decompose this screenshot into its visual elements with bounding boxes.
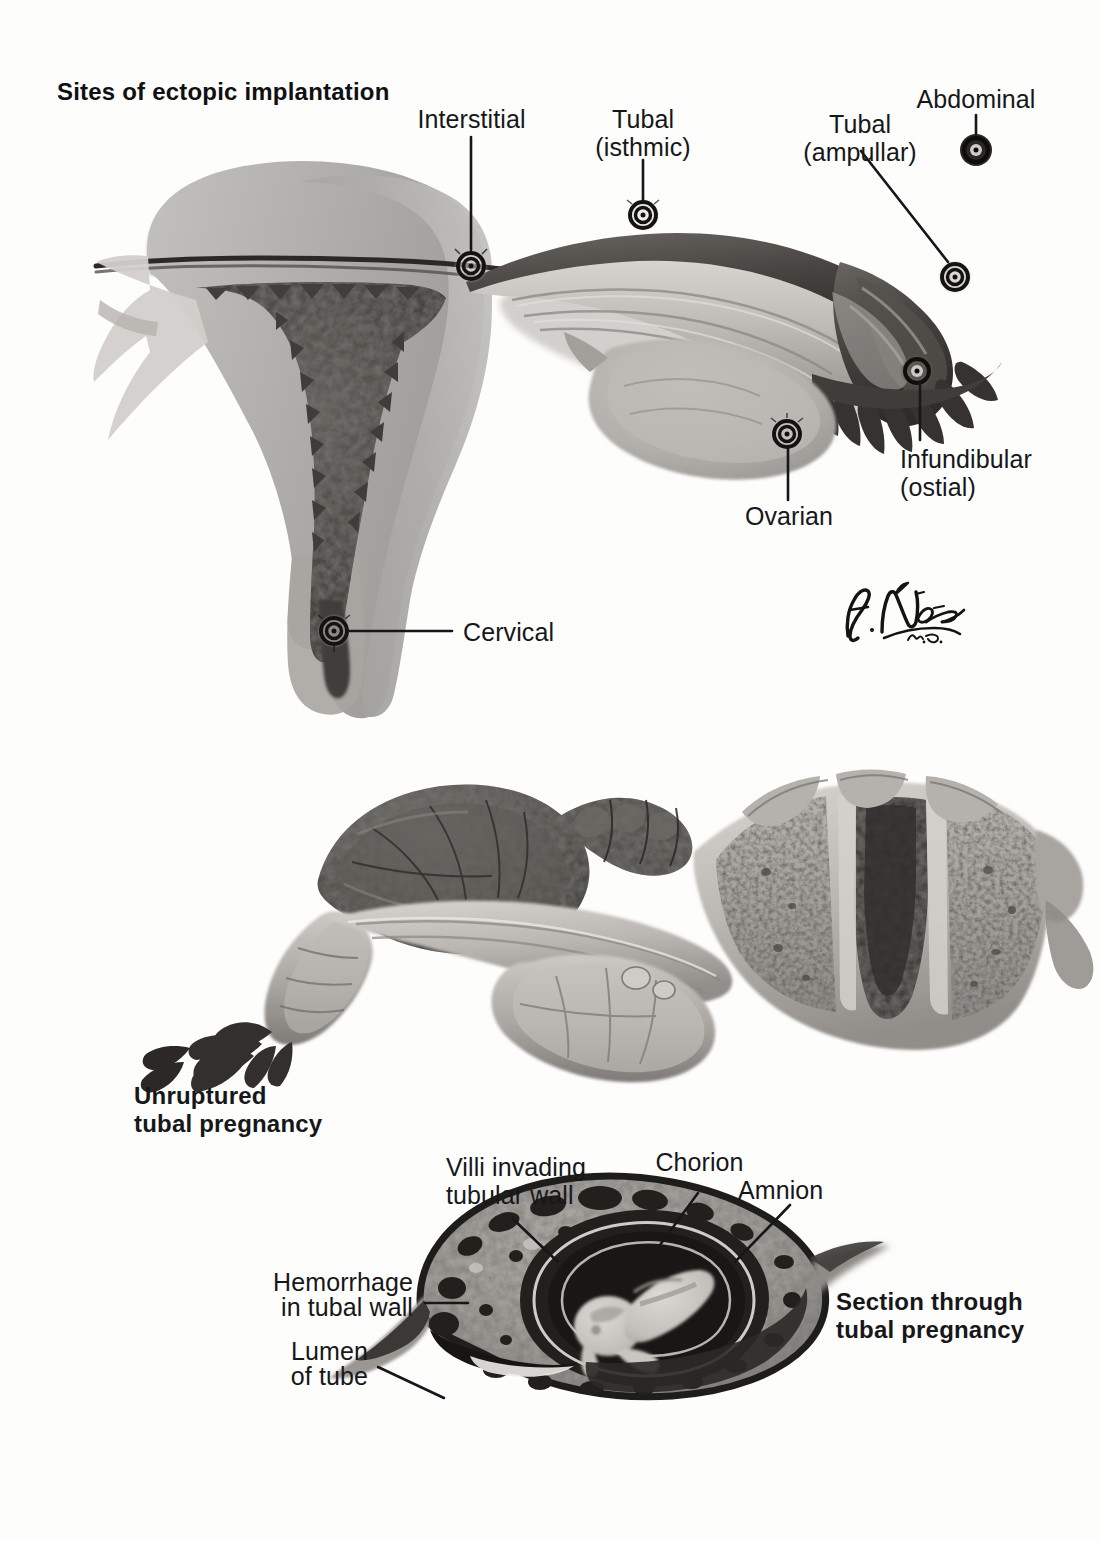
label-tubal-isthmic-line2: (isthmic) bbox=[578, 133, 708, 161]
leader-lumen bbox=[378, 1367, 444, 1398]
implantation-site-markers bbox=[318, 134, 992, 652]
caption-unruptured-line2: tubal pregnancy bbox=[134, 1110, 322, 1137]
label-lumen-line1: Lumen bbox=[128, 1337, 368, 1365]
leader-chorion bbox=[660, 1193, 698, 1245]
netter-signature bbox=[838, 578, 968, 646]
label-amnion: Amnion bbox=[738, 1176, 823, 1204]
label-cervical: Cervical bbox=[463, 618, 554, 646]
figure-section-through-tubal-pregnancy bbox=[330, 1176, 890, 1397]
label-lumen-line2: of tube bbox=[128, 1362, 368, 1390]
leader-amnion bbox=[735, 1205, 790, 1262]
leader-villi bbox=[513, 1219, 558, 1262]
label-tubal-isthmic-line1: Tubal bbox=[578, 105, 708, 133]
label-chorion: Chorion bbox=[622, 1148, 777, 1176]
label-interstitial: Interstitial bbox=[394, 105, 549, 133]
label-tubal-ampullar-line2: (ampullar) bbox=[790, 138, 930, 166]
label-hemorrhage-line1: Hemorrhage bbox=[148, 1268, 413, 1296]
label-abdominal: Abdominal bbox=[896, 85, 1056, 113]
caption-section-line2: tubal pregnancy bbox=[836, 1316, 1024, 1343]
caption-section-line1: Section through bbox=[836, 1288, 1023, 1315]
label-infundibular-line1: Infundibular bbox=[900, 445, 1032, 473]
figure-unruptured-tubal-pregnancy bbox=[141, 770, 1094, 1093]
label-infundibular-line2: (ostial) bbox=[900, 473, 976, 501]
label-tubal-ampullar-line1: Tubal bbox=[790, 110, 930, 138]
label-villi-line1: Villi invading bbox=[446, 1153, 586, 1181]
label-ovarian: Ovarian bbox=[714, 502, 864, 530]
label-villi-line2: tubular wall bbox=[446, 1181, 574, 1209]
label-hemorrhage-line2: in tubal wall bbox=[148, 1293, 413, 1321]
page-title: Sites of ectopic implantation bbox=[57, 78, 390, 106]
caption-unruptured-line1: Unruptured bbox=[134, 1082, 267, 1109]
leader-tubal-ampullar bbox=[861, 151, 948, 262]
plate-page: Sites of ectopic implantation Interstiti… bbox=[0, 0, 1101, 1542]
